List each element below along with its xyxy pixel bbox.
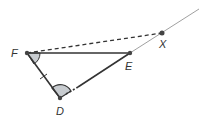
point-x	[160, 31, 165, 36]
geometry-diagram: F E X D	[0, 0, 199, 140]
label-f: F	[11, 47, 18, 59]
label-d: D	[56, 105, 64, 117]
point-d	[58, 96, 62, 100]
segment-de	[78, 53, 130, 87]
segment-fx-dashed	[27, 33, 162, 53]
diagram-canvas	[0, 0, 199, 140]
label-x: X	[159, 38, 166, 50]
label-e: E	[125, 60, 132, 72]
point-e	[128, 51, 132, 55]
segment-fd	[27, 53, 60, 98]
point-f	[25, 51, 29, 55]
